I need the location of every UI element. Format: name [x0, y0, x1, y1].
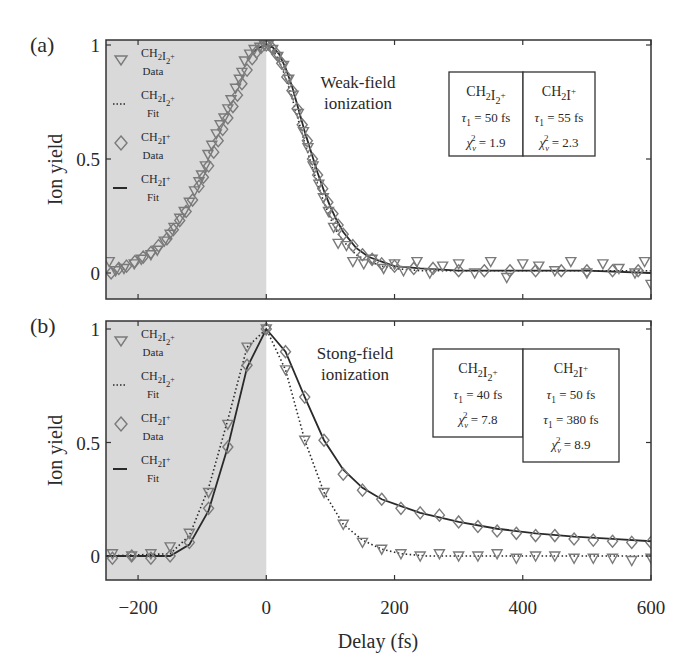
x-axis-labels: −2000200400600	[118, 597, 665, 618]
x-axis-title: Delay (fs)	[338, 630, 419, 653]
y-tick-label: 0	[91, 546, 101, 567]
fit-parameter: χν2 = 1.9	[464, 133, 505, 153]
x-tick-label: 600	[637, 597, 666, 618]
legend-sublabel: Data	[143, 149, 164, 161]
fit-parameter: χν2 = 7.8	[456, 410, 497, 430]
fit-parameters-table: CH2I2+τ1 = 50 fsχν2 = 1.9CH2I+τ1 = 55 fs…	[449, 72, 595, 156]
y-axis-title: Ion yield	[44, 415, 67, 487]
y-tick-label: 1	[91, 35, 101, 56]
y-tick-label: 0	[91, 263, 101, 284]
x-tick-label: 0	[262, 597, 272, 618]
y-tick-label: 0.5	[76, 433, 100, 454]
legend-sublabel: Fit	[147, 388, 159, 400]
legend-sublabel: Data	[143, 430, 164, 442]
figure: 00.51(a)Ion yieldCH2I2+DataCH2I2+FitCH2I…	[0, 0, 690, 665]
legend-sublabel: Fit	[147, 107, 159, 119]
legend-sublabel: Fit	[147, 191, 159, 203]
panel-annotation: Stong-field	[317, 344, 394, 363]
x-tick-label: 400	[509, 597, 538, 618]
fit-parameter: χν2 = 8.9	[549, 435, 590, 455]
legend-sublabel: Fit	[147, 472, 159, 484]
panel-annotation: ionization	[321, 365, 389, 384]
x-tick-label: −200	[118, 597, 157, 618]
legend-sublabel: Data	[143, 65, 164, 77]
y-axis-title: Ion yield	[44, 134, 67, 206]
x-tick-label: 200	[380, 597, 409, 618]
panel-annotation: Weak-field	[320, 73, 396, 92]
panel-label: (a)	[30, 32, 54, 57]
fit-parameters-table: CH2I2+τ1 = 40 fsχν2 = 7.8CH2I+τ1 = 50 fs…	[433, 349, 619, 462]
panel-annotation: ionization	[324, 94, 392, 113]
fit-parameter: χν2 = 2.3	[537, 133, 578, 153]
panel-b: 00.51(b)Ion yieldCH2I2+DataCH2I2+FitCH2I…	[30, 313, 656, 580]
panel-a: 00.51(a)Ion yieldCH2I2+DataCH2I2+FitCH2I…	[30, 32, 656, 299]
panel-label: (b)	[30, 313, 56, 338]
legend-sublabel: Data	[143, 346, 164, 358]
y-tick-label: 0.5	[76, 149, 100, 170]
y-tick-label: 1	[91, 319, 101, 340]
